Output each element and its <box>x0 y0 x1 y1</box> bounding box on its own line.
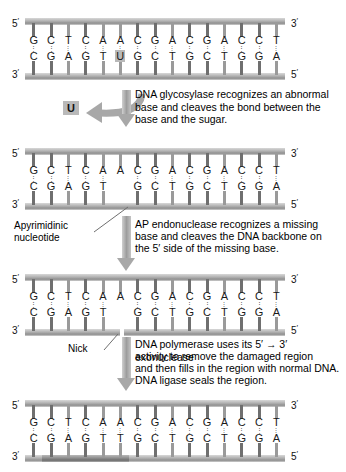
end-label-3prime-bottom-p2: 3′ <box>12 197 19 210</box>
dna-duplex-2: G⋮CC⋮GT⋮AC⋮GA⋮TA⋮C⋮GG⋮CA⋮TC⋮GG⋮CA⋮TC⋮GC⋮… <box>25 144 285 214</box>
step-2-text-line1: AP endonuclease recognizes a missing <box>135 218 343 231</box>
base-bottom: G <box>234 307 250 318</box>
base-bottom: T <box>112 433 128 444</box>
base-bottom: G <box>234 181 250 192</box>
end-label-3prime-top-p2: 3′ <box>291 146 298 159</box>
base-bottom: A <box>268 181 284 192</box>
base-bottom: T <box>95 51 111 62</box>
end-label-3prime-bottom-p3: 3′ <box>12 323 19 336</box>
arrow-stem-3 <box>122 337 131 379</box>
base-bottom: T <box>164 51 180 62</box>
apyrimidinic-label-line2: nucleotide <box>14 232 104 244</box>
step-3-text-line4: DNA ligase seals the region. <box>135 374 346 387</box>
arrow-head-3 <box>117 378 135 391</box>
base-bottom: T <box>164 433 180 444</box>
end-label-5prime-bottom-p4: 5′ <box>291 449 298 462</box>
step-1-text: DNA glycosylase recognizes an abnormal b… <box>135 88 340 126</box>
base-bottom: A <box>268 433 284 444</box>
base-bottom: T <box>216 433 232 444</box>
base-bottom: U <box>112 51 128 62</box>
base-bottom: G <box>130 51 146 62</box>
end-label-3prime-bottom-p1: 3′ <box>12 67 19 80</box>
base-bottom: C <box>199 307 215 318</box>
apyrimidinic-label-line1: Apyrimidinic <box>14 220 104 232</box>
base-bottom: T <box>216 307 232 318</box>
base-bottom: G <box>43 181 59 192</box>
step-2-text-line3: the 5′ side of the missing base. <box>135 242 343 255</box>
base-bottom: G <box>78 307 94 318</box>
dna-duplex-1: G⋮CC⋮GT⋮AC⋮GA⋮TA⋮UC⋮GG⋮CA⋮TC⋮GG⋮CA⋮TC⋮GC… <box>25 14 285 84</box>
end-label-3prime-top-p3: 3′ <box>291 272 298 285</box>
base-bottom: G <box>78 433 94 444</box>
base-bottom: G <box>43 433 59 444</box>
base-bottom: T <box>164 181 180 192</box>
base-bottom: C <box>147 433 163 444</box>
base-bottom: C <box>199 433 215 444</box>
end-label-5prime-top-p3: 5′ <box>12 272 19 285</box>
base-layer-1: G⋮CC⋮GT⋮AC⋮GA⋮TA⋮UC⋮GG⋮CA⋮TC⋮GG⋮CA⋮TC⋮GC… <box>25 14 285 84</box>
panel-repaired-dna: 5′ 3′ 3′ 5′ G⋮CC⋮GT⋮AC⋮GA⋮TA⋮TC⋮GG⋮CA⋮TC… <box>0 396 346 466</box>
step-3-text-line3: and then fills in the region with normal… <box>135 362 346 375</box>
base-bottom: G <box>182 181 198 192</box>
panel-nicked-dna: 5′ 3′ 3′ 5′ G⋮CC⋮GT⋮AC⋮GA⋮TA⋮C⋮GG⋮CA⋮TC⋮… <box>0 270 346 340</box>
panel-damaged-dna: 5′ 3′ 3′ 5′ G⋮CC⋮GT⋮AC⋮GA⋮TA⋮UC⋮GG⋮CA⋮TC… <box>0 14 346 84</box>
base-bottom: A <box>60 181 76 192</box>
base-layer-3: G⋮CC⋮GT⋮AC⋮GA⋮TA⋮C⋮GG⋮CA⋮TC⋮GG⋮CA⋮TC⋮GC⋮… <box>25 270 285 340</box>
base-bottom: G <box>130 181 146 192</box>
base-bottom: C <box>199 51 215 62</box>
arrow-stem-2 <box>122 216 131 259</box>
base-bottom: G <box>251 433 267 444</box>
base-bottom: G <box>234 433 250 444</box>
step-2-text-line2: base and cleaves the DNA backbone on <box>135 230 343 243</box>
base-bottom: G <box>182 433 198 444</box>
base-bottom: A <box>268 51 284 62</box>
end-label-5prime-bottom-p3: 5′ <box>291 323 298 336</box>
end-label-5prime-bottom-p2: 5′ <box>291 197 298 210</box>
base-bottom: T <box>164 307 180 318</box>
base-bottom: C <box>26 51 42 62</box>
nick-label: Nick <box>68 343 108 355</box>
base-bottom: G <box>43 51 59 62</box>
base-bottom: G <box>251 51 267 62</box>
base-bottom: G <box>234 51 250 62</box>
end-label-3prime-top-p1: 3′ <box>291 16 298 29</box>
base-bottom: C <box>147 51 163 62</box>
base-bottom: T <box>95 307 111 318</box>
base-layer-4: G⋮CC⋮GT⋮AC⋮GA⋮TA⋮TC⋮GG⋮CA⋮TC⋮GG⋮CA⋮TC⋮GC… <box>25 396 285 466</box>
base-bottom: T <box>216 181 232 192</box>
base-bottom: C <box>147 307 163 318</box>
base-bottom: G <box>130 433 146 444</box>
end-label-5prime-top-p4: 5′ <box>12 398 19 411</box>
end-label-5prime-top-p1: 5′ <box>12 16 19 29</box>
end-label-3prime-top-p4: 3′ <box>291 398 298 411</box>
base-layer-2: G⋮CC⋮GT⋮AC⋮GA⋮TA⋮C⋮GG⋮CA⋮TC⋮GG⋮CA⋮TC⋮GC⋮… <box>25 144 285 214</box>
step-3-text-line2: activity to remove the damaged region <box>135 350 346 363</box>
base-bottom: T <box>95 181 111 192</box>
arrow-stem-1 <box>122 90 131 116</box>
base-bottom: A <box>60 51 76 62</box>
base-top: A <box>112 165 128 176</box>
base-bottom: T <box>95 433 111 444</box>
arrow-head-1 <box>117 114 135 127</box>
base-bottom: G <box>130 307 146 318</box>
dna-duplex-3: G⋮CC⋮GT⋮AC⋮GA⋮TA⋮C⋮GG⋮CA⋮TC⋮GG⋮CA⋮TC⋮GC⋮… <box>25 270 285 340</box>
base-bottom: C <box>147 181 163 192</box>
end-label-5prime-bottom-p1: 5′ <box>291 67 298 80</box>
highlighted-uracil: U <box>115 50 125 62</box>
base-bottom: C <box>26 181 42 192</box>
base-bottom: G <box>78 181 94 192</box>
base-bottom: A <box>268 307 284 318</box>
base-bottom: C <box>26 307 42 318</box>
base-bottom: A <box>60 433 76 444</box>
base-bottom: G <box>251 181 267 192</box>
panel-apyrimidinic-dna: 5′ 3′ 3′ 5′ G⋮CC⋮GT⋮AC⋮GA⋮TA⋮C⋮GG⋮CA⋮TC⋮… <box>0 144 346 214</box>
base-bottom: A <box>60 307 76 318</box>
base-bottom: G <box>251 307 267 318</box>
end-label-3prime-bottom-p4: 3′ <box>12 449 19 462</box>
base-bottom: G <box>182 307 198 318</box>
base-bottom: G <box>43 307 59 318</box>
base-top: A <box>112 291 128 302</box>
base-bottom: C <box>26 433 42 444</box>
base-bottom: G <box>182 51 198 62</box>
end-label-5prime-top-p2: 5′ <box>12 146 19 159</box>
